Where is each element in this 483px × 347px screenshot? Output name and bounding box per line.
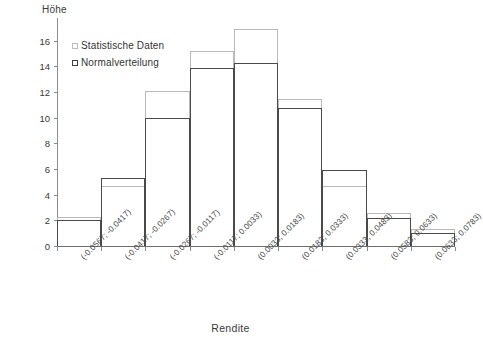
y-tick-label: 12 bbox=[30, 87, 50, 98]
x-tick-mark bbox=[455, 247, 456, 251]
x-axis-title: Rendite bbox=[0, 322, 461, 334]
x-tick-mark bbox=[234, 247, 235, 251]
x-tick-mark bbox=[145, 247, 146, 251]
y-tick-label: 8 bbox=[30, 138, 50, 149]
x-tick-mark bbox=[57, 247, 58, 251]
legend-item-statistische-daten: Statistische Daten bbox=[72, 38, 164, 53]
legend-label-statistische-daten: Statistische Daten bbox=[81, 40, 164, 51]
y-axis-title: Höhe bbox=[42, 4, 67, 15]
legend-swatch-icon-statistische-daten bbox=[72, 43, 78, 49]
y-tick-label: 0 bbox=[30, 241, 50, 252]
y-tick-label: 16 bbox=[30, 35, 50, 46]
x-tick-mark bbox=[278, 247, 279, 251]
legend-label-normalverteilung: Normalverteilung bbox=[81, 57, 159, 68]
legend-swatch-icon-normalverteilung bbox=[72, 60, 78, 66]
x-tick-mark bbox=[190, 247, 191, 251]
x-tick-mark bbox=[411, 247, 412, 251]
x-tick-mark bbox=[367, 247, 368, 251]
y-tick-label: 10 bbox=[30, 112, 50, 123]
y-tick-label: 14 bbox=[30, 61, 50, 72]
y-tick-mark bbox=[54, 66, 58, 67]
y-tick-mark bbox=[54, 118, 58, 119]
y-tick-mark bbox=[54, 195, 58, 196]
y-tick-mark bbox=[54, 41, 58, 42]
x-tick-mark bbox=[322, 247, 323, 251]
y-tick-mark bbox=[54, 169, 58, 170]
y-axis-line bbox=[57, 18, 58, 246]
y-tick-mark bbox=[54, 92, 58, 93]
x-tick-mark bbox=[101, 247, 102, 251]
chart-legend: Statistische Daten Normalverteilung bbox=[72, 38, 164, 72]
y-tick-label: 6 bbox=[30, 164, 50, 175]
y-tick-mark bbox=[54, 143, 58, 144]
legend-item-normalverteilung: Normalverteilung bbox=[72, 55, 164, 70]
y-tick-label: 4 bbox=[30, 189, 50, 200]
y-tick-label: 2 bbox=[30, 215, 50, 226]
